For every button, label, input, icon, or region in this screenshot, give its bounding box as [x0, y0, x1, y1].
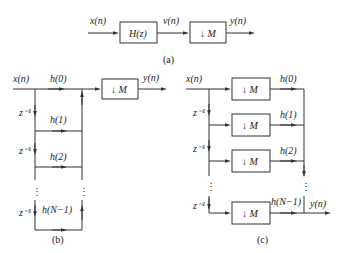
c-hn-label: h(N−1) — [271, 196, 302, 208]
a-downsampler-label: ↓ M — [200, 28, 217, 39]
b-delay-label-4: z⁻¹ — [18, 207, 31, 218]
b-hn-label: h(N−1) — [42, 204, 73, 216]
diagram-b: x(n) h(0) ↓ M y(n) z⁻¹ z⁻¹ ⋮ z⁻¹ h(1) h(… — [12, 72, 164, 246]
c-left-ellipsis: ⋮ — [206, 181, 216, 192]
a-input-label: x(n) — [89, 15, 107, 27]
c-delay-label-1: z⁻¹ — [192, 107, 205, 118]
c-h0-label: h(0) — [280, 73, 297, 85]
a-caption: (a) — [163, 54, 174, 66]
diagram-canvas: x(n) H(z) v(n) ↓ M y(n) (a) x(n) h(0) ↓ … — [0, 0, 339, 253]
c-downsampler-label-2: ↓ M — [242, 156, 259, 167]
c-h2-label: h(2) — [280, 145, 297, 157]
diagram-a: x(n) H(z) v(n) ↓ M y(n) (a) — [88, 15, 252, 66]
c-output-label: y(n) — [309, 198, 327, 210]
b-delay-label-1: z⁻¹ — [18, 107, 31, 118]
c-input-label: x(n) — [185, 73, 203, 85]
a-filter-label: H(z) — [128, 28, 147, 40]
b-h1-label: h(1) — [50, 114, 67, 126]
b-input-label: x(n) — [12, 73, 30, 85]
b-right-ellipsis: ⋮ — [79, 186, 89, 197]
a-output-label: y(n) — [229, 15, 247, 27]
a-intermediate-label: v(n) — [163, 15, 180, 27]
b-downsampler-label: ↓ M — [111, 84, 128, 95]
c-delay-label-2: z⁻¹ — [192, 143, 205, 154]
b-h2-label: h(2) — [50, 151, 67, 163]
c-h1-label: h(1) — [280, 109, 297, 121]
b-output-label: y(n) — [142, 72, 160, 84]
c-caption: (c) — [257, 234, 268, 246]
c-right-ellipsis: ⋮ — [301, 181, 311, 192]
b-h0-label: h(0) — [50, 73, 67, 85]
c-downsampler-label-n: ↓ M — [242, 208, 259, 219]
b-left-ellipsis: ⋮ — [32, 186, 42, 197]
c-delay-label-4: z⁻¹ — [192, 200, 205, 211]
c-downsampler-label-0: ↓ M — [242, 84, 259, 95]
b-delay-label-2: z⁻¹ — [18, 145, 31, 156]
b-caption: (b) — [52, 234, 64, 246]
diagram-c: x(n) z⁻¹ z⁻¹ ⋮ z⁻¹ ↓ M ↓ M ↓ M ↓ M h(0) — [185, 73, 328, 246]
c-downsampler-label-1: ↓ M — [242, 120, 259, 131]
